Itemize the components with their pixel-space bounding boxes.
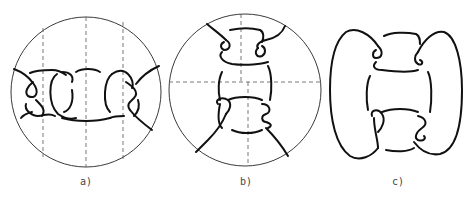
knot-a (14, 66, 159, 130)
panel-b (169, 14, 321, 166)
panel-a-label: a) (80, 176, 92, 187)
panel-c (330, 30, 462, 158)
knot-figure: a) b) c) (0, 0, 476, 201)
panel-c-label: c) (392, 176, 404, 187)
knot-diagrams-svg (0, 0, 476, 201)
panel-a (11, 17, 161, 167)
knot-c (330, 30, 462, 158)
knot-b (196, 24, 288, 156)
disk-b-boundary (169, 14, 321, 166)
panel-b-label: b) (240, 176, 252, 187)
